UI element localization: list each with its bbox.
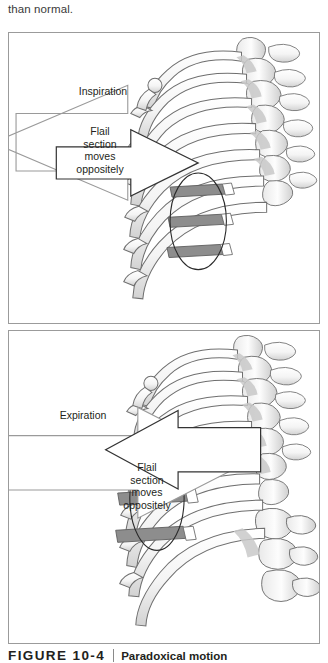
figure-number: FIGURE 10-4 <box>8 648 105 663</box>
flail-segments <box>167 184 225 258</box>
caption-divider <box>113 649 114 662</box>
inspiration-illustration <box>9 33 319 323</box>
expiration-illustration <box>9 331 319 643</box>
breath-arrow-inspiration <box>9 85 128 200</box>
figure-panel-inspiration: Inspiration Flail section moves opposite… <box>8 32 320 324</box>
figure-title: Paradoxical motion <box>121 650 227 662</box>
lumbar-vertebrae <box>255 508 319 601</box>
running-body-text: than normal. <box>8 2 308 17</box>
figure-panel-expiration: Expiration Flail section moves oppositel… <box>8 330 320 644</box>
figure-caption: FIGURE 10-4Paradoxical motion <box>8 648 320 663</box>
